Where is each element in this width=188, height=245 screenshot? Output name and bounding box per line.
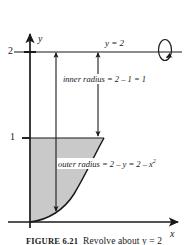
y-axis-label: y (38, 33, 42, 44)
figure-number: FIGURE 6.21 (26, 236, 78, 245)
inner-radius-label: inner radius = 2 – 1 = 1 (62, 74, 147, 84)
figure-caption: FIGURE 6.21 Revolve about y = 2 (0, 235, 188, 245)
outer-radius-label-text: outer radius = 2 – y = 2 – x (58, 159, 153, 169)
y-tick-label-2: 2 (8, 45, 13, 56)
figure-container: y x 2 1 y = 2 inner radius = 2 – 1 = 1 o… (0, 0, 188, 245)
line-equation-label: y = 2 (105, 38, 124, 48)
outer-radius-label: outer radius = 2 – y = 2 – x2 (57, 158, 157, 169)
shaded-region (30, 138, 104, 222)
calculus-figure-graphic (0, 0, 188, 245)
outer-radius-exponent: 2 (153, 158, 156, 164)
figure-caption-text: Revolve about y = 2 (83, 236, 162, 245)
revolution-ellipse-icon (159, 40, 172, 61)
y-tick-label-1: 1 (10, 131, 15, 142)
